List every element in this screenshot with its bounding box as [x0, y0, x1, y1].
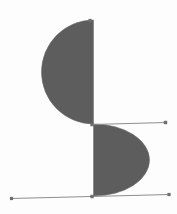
node-axis-bottom [90, 195, 93, 198]
node-bottom-right [167, 193, 170, 196]
figure-svg [0, 0, 177, 214]
node-bottom-left [10, 197, 13, 200]
node-middle-right [164, 121, 167, 124]
node-axis-middle [90, 123, 93, 126]
figure-canvas [0, 0, 177, 214]
node-apex-top [88, 19, 91, 22]
